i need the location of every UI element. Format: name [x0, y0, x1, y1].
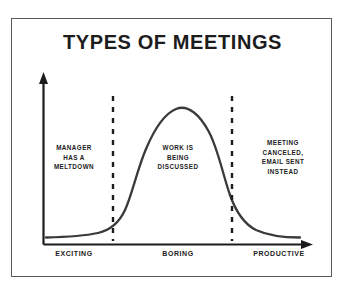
- annotation-meeting-canceled: MEETING CANCELED, EMAIL SENT INSTEAD: [238, 138, 328, 176]
- axis-label-productive: PRODUCTIVE: [234, 250, 324, 257]
- poster-frame: TYPES OF MEETINGS MANAGER HAS A MELTDOWN…: [11, 18, 332, 277]
- annotation-right-line1: MEETING: [238, 138, 328, 148]
- annotation-center-line3: DISCUSSED: [128, 162, 228, 172]
- annotation-left-line1: MANAGER: [34, 143, 114, 153]
- annotation-right-line2: CANCELED,: [238, 148, 328, 158]
- axis-label-exciting: EXCITING: [34, 250, 114, 257]
- annotation-left-line2: HAS A: [34, 153, 114, 163]
- annotation-center-line2: BEING: [128, 153, 228, 163]
- annotation-left-line3: MELTDOWN: [34, 162, 114, 172]
- annotation-right-line3: EMAIL SENT: [238, 157, 328, 167]
- annotation-manager-meltdown: MANAGER HAS A MELTDOWN: [34, 143, 114, 172]
- annotation-work-discussed: WORK IS BEING DISCUSSED: [128, 143, 228, 172]
- x-axis: [44, 240, 314, 249]
- annotation-center-line1: WORK IS: [128, 143, 228, 153]
- annotation-right-line4: INSTEAD: [238, 167, 328, 177]
- axis-label-boring: BORING: [138, 250, 218, 257]
